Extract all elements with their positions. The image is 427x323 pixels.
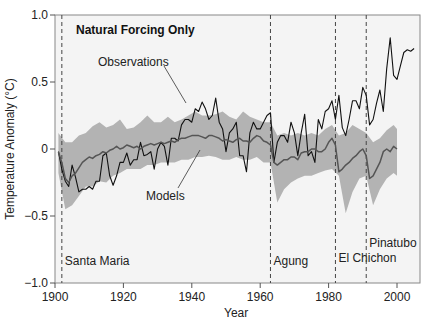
x-tick-label: 1960 bbox=[247, 290, 274, 304]
y-axis-title: Temperature Anomaly (°C) bbox=[3, 78, 17, 220]
y-tick-label: 1.0 bbox=[31, 8, 48, 22]
y-tick-label: −1.0 bbox=[24, 276, 48, 290]
volcano-label: Santa Maria bbox=[65, 254, 130, 268]
y-tick-label: 0 bbox=[41, 142, 48, 156]
x-axis-title: Year bbox=[224, 306, 248, 320]
volcano-label: El Chichon bbox=[338, 251, 396, 265]
y-tick-label: 0.5 bbox=[31, 75, 48, 89]
x-tick-label: 2000 bbox=[384, 290, 411, 304]
x-tick-label: 1980 bbox=[315, 290, 342, 304]
x-tick-label: 1900 bbox=[42, 290, 69, 304]
volcano-label: Agung bbox=[273, 254, 308, 268]
volcano-label: Pinatubo bbox=[369, 236, 417, 250]
temperature-anomaly-chart: Santa MariaAgungEl ChichonPinatubo 1.00.… bbox=[0, 0, 427, 323]
x-tick-label: 1920 bbox=[110, 290, 137, 304]
chart-title: Natural Forcing Only bbox=[76, 23, 195, 37]
models-callout-label: Models bbox=[146, 189, 185, 203]
y-tick-label: −0.5 bbox=[24, 209, 48, 223]
x-tick-label: 1940 bbox=[178, 290, 205, 304]
observations-callout-label: Observations bbox=[98, 55, 169, 69]
